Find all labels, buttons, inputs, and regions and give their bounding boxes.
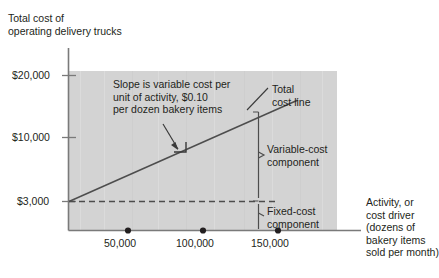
x-tick-label-150000: 150,000 <box>251 237 289 250</box>
x-tick-50000 <box>125 227 131 233</box>
y-tick-label-3000: $3,000 <box>17 195 49 208</box>
fixed-cost-component-label: Fixed-cost component <box>267 205 319 230</box>
x-tick-100000 <box>200 227 206 233</box>
x-tick-label-50000: 50,000 <box>104 237 136 250</box>
y-tick-label-10000: $10,000 <box>12 131 50 144</box>
variable-cost-component-label: Variable-cost component <box>267 143 328 168</box>
y-tick-label-20000: $20,000 <box>12 69 50 82</box>
slope-annotation-text: Slope is variable cost per unit of activ… <box>113 78 230 116</box>
x-axis-title: Activity, or cost driver (dozens of bake… <box>366 196 439 259</box>
y-axis-title: Total cost of operating delivery trucks <box>8 12 122 37</box>
total-cost-line-label: Total cost line <box>272 83 311 108</box>
x-tick-label-100000: 100,000 <box>176 237 214 250</box>
